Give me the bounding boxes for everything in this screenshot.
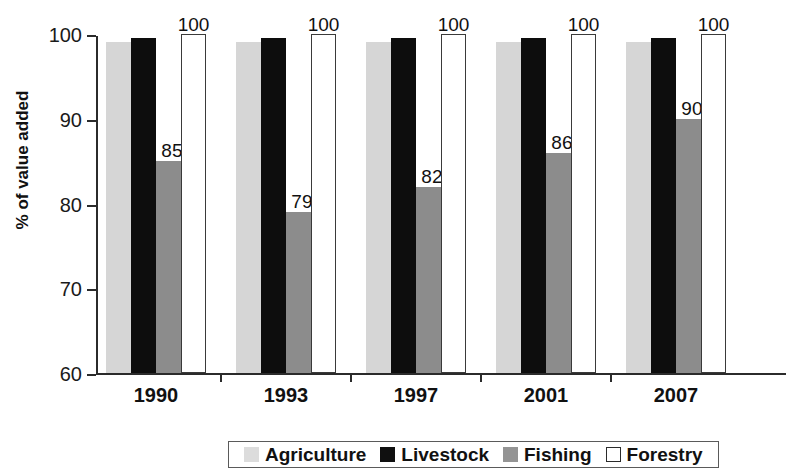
- bar-forestry: 100: [441, 34, 466, 373]
- x-axis-category-label: 2001: [476, 384, 616, 407]
- bar-agriculture: [496, 42, 521, 373]
- bar-group: 85100: [106, 34, 206, 373]
- bar-value-label: 86: [551, 133, 572, 152]
- legend-label-forestry: Forestry: [627, 444, 703, 466]
- y-axis-title: % of value added: [13, 65, 33, 255]
- y-axis-tick: [87, 374, 96, 376]
- y-axis-tick: [87, 120, 96, 122]
- y-axis-tick: [87, 289, 96, 291]
- x-axis-tick: [610, 375, 612, 382]
- y-axis-tick: [87, 205, 96, 207]
- chart-legend: Agriculture Livestock Fishing Forestry: [228, 441, 719, 468]
- y-axis-tick-label: 90: [22, 110, 82, 130]
- bar-value-label: 82: [421, 167, 442, 186]
- x-axis-category-label: 2007: [606, 384, 746, 407]
- bar-value-label: 100: [568, 15, 600, 34]
- x-axis-tick: [220, 375, 222, 382]
- bar-value-label: 100: [308, 15, 340, 34]
- bar-forestry: 100: [311, 34, 336, 373]
- y-axis-tick-label: 80: [22, 195, 82, 215]
- x-axis-tick: [350, 375, 352, 382]
- bar-value-label: 100: [698, 15, 730, 34]
- bar-agriculture: [366, 42, 391, 373]
- bar-fishing: 86: [546, 153, 571, 373]
- bar-agriculture: [106, 42, 131, 373]
- y-axis-line: [96, 36, 98, 375]
- bar-value-label: 100: [178, 15, 210, 34]
- legend-item-livestock: Livestock: [380, 444, 489, 466]
- legend-swatch-fishing-icon: [503, 447, 518, 462]
- bar-agriculture: [626, 42, 651, 373]
- bar-fishing: 82: [416, 187, 441, 373]
- legend-item-agriculture: Agriculture: [244, 444, 366, 466]
- bar-value-label: 79: [291, 192, 312, 211]
- bar-livestock: [391, 38, 416, 373]
- bar-value-label: 90: [681, 99, 702, 118]
- bar-livestock: [521, 38, 546, 373]
- y-axis-tick: [87, 35, 96, 37]
- bar-group: 82100: [366, 34, 466, 373]
- x-axis-category-label: 1997: [346, 384, 486, 407]
- bar-fishing: 85: [156, 161, 181, 373]
- bar-forestry: 100: [181, 34, 206, 373]
- plot-area: 60708090100 8510019907910019938210019978…: [96, 36, 776, 375]
- bar-fishing: 90: [676, 119, 701, 373]
- y-axis-tick-label: 70: [22, 279, 82, 299]
- legend-swatch-forestry-icon: [606, 447, 621, 462]
- bar-livestock: [651, 38, 676, 373]
- legend-label-livestock: Livestock: [401, 444, 489, 466]
- x-axis-category-label: 1990: [86, 384, 226, 407]
- bar-forestry: 100: [701, 34, 726, 373]
- bar-fishing: 79: [286, 212, 311, 373]
- legend-swatch-livestock-icon: [380, 447, 395, 462]
- legend-item-fishing: Fishing: [503, 444, 592, 466]
- bar-value-label: 100: [438, 15, 470, 34]
- legend-swatch-agriculture-icon: [244, 447, 259, 462]
- x-axis-category-label: 1993: [216, 384, 356, 407]
- x-axis-line: [96, 373, 786, 375]
- bar-group: 90100: [626, 34, 726, 373]
- bar-value-label: 85: [161, 141, 182, 160]
- bar-livestock: [131, 38, 156, 373]
- legend-label-agriculture: Agriculture: [265, 444, 366, 466]
- bar-forestry: 100: [571, 34, 596, 373]
- legend-label-fishing: Fishing: [524, 444, 592, 466]
- legend-item-forestry: Forestry: [606, 444, 703, 466]
- x-axis-tick: [480, 375, 482, 382]
- bar-group: 79100: [236, 34, 336, 373]
- bar-agriculture: [236, 42, 261, 373]
- bar-chart: % of value added 60708090100 85100199079…: [0, 0, 795, 470]
- bar-livestock: [261, 38, 286, 373]
- y-axis-tick-label: 60: [22, 364, 82, 384]
- bar-group: 86100: [496, 34, 596, 373]
- y-axis-tick-label: 100: [22, 25, 82, 45]
